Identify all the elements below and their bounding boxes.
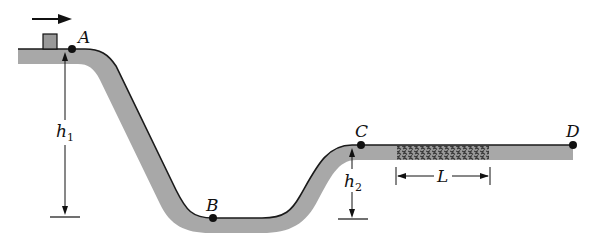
label-b: B	[205, 195, 219, 215]
h2-label: h2	[344, 171, 362, 194]
motion-arrow-icon	[32, 14, 72, 24]
track-diagram: A B C D h1 h2	[0, 0, 600, 244]
rough-patch	[397, 146, 489, 160]
point-c	[357, 141, 365, 149]
point-b	[209, 214, 217, 222]
block	[43, 34, 57, 49]
h1-label: h1	[56, 121, 74, 144]
label-c: C	[355, 121, 368, 141]
label-a: A	[76, 27, 90, 47]
point-a	[68, 45, 76, 53]
track-band	[18, 49, 573, 233]
point-d	[569, 141, 577, 149]
label-d: D	[565, 121, 580, 141]
l-label: L	[436, 166, 448, 186]
